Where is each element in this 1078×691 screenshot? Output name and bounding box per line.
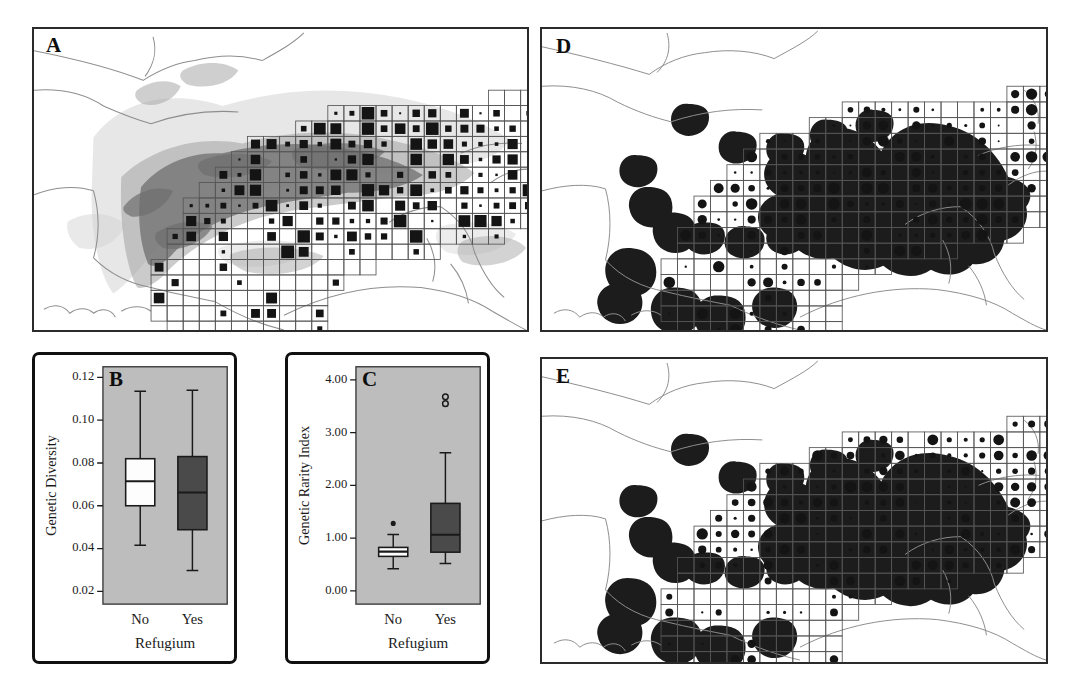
sample-circle-symbol [697,528,708,539]
panel-a-distribution-map: A [32,27,529,332]
sample-circle-symbol [779,513,789,523]
sample-circle-symbol [833,470,836,473]
sample-square-symbol [495,142,499,146]
sample-circle-symbol [964,124,967,127]
sample-square-symbol [331,186,341,195]
sample-square-symbol [286,189,289,192]
panel-c-y-axis-title: Genetic Rarity Index [296,426,312,545]
sample-circle-symbol [996,469,1001,474]
sample-circle-symbol [862,168,872,178]
sample-square-symbol [220,203,226,209]
sample-square-symbol [494,234,498,238]
sample-square-symbol [285,173,290,178]
sample-square-symbol [507,154,517,164]
sample-square-symbol [250,185,261,196]
sample-circle-symbol [895,529,904,538]
sample-circle-symbol [964,155,968,159]
sample-circle-symbol [815,170,819,174]
sample-square-symbol [474,215,486,227]
sample-circle-symbol [912,168,921,177]
sample-square-symbol [219,171,227,179]
y-tick-label: 0.10 [72,412,94,426]
sample-circle-symbol [879,436,887,444]
outlier-filled [391,521,396,526]
sample-circle-symbol [932,549,934,551]
sample-circle-symbol [713,261,724,272]
sample-square-symbol [495,174,497,176]
sample-circle-symbol [780,467,789,476]
sample-circle-symbol [797,279,805,286]
sample-square-symbol [443,154,454,165]
sample-circle-symbol [897,139,902,144]
sample-square-symbol [476,125,484,133]
sample-square-symbol [173,234,178,239]
sample-circle-symbol [961,467,970,476]
sample-square-symbol [332,217,339,224]
sample-circle-symbol [979,153,986,160]
sample-circle-symbol [882,202,885,205]
sample-circle-symbol [911,152,921,162]
sample-square-symbol [365,233,371,239]
sample-circle-symbol [996,170,1001,175]
sample-square-symbol [395,123,406,134]
sample-square-symbol [250,169,261,180]
sample-square-symbol [477,187,483,193]
panel-b-category-labels: NoYes [131,611,203,627]
sample-square-symbol [267,139,277,149]
sample-circle-symbol [797,545,805,553]
sample-square-symbol [220,311,226,317]
sample-circle-symbol [1012,453,1018,459]
panel-e-map-graphic [542,359,1046,662]
sample-square-symbol [508,170,518,180]
sample-square-symbol [364,140,372,148]
sample-circle-symbol [863,137,871,145]
sample-circle-symbol [947,500,951,504]
sample-circle-symbol [1028,421,1035,428]
sample-circle-symbol [865,202,869,206]
sample-circle-symbol [878,121,888,131]
panel-d-genetic-diversity-map: D [540,27,1048,332]
sample-circle-symbol [863,436,870,443]
sample-circle-symbol [929,200,936,207]
sample-circle-symbol [816,517,819,520]
sample-circle-symbol [880,499,886,505]
sample-circle-symbol [927,434,938,445]
sample-square-symbol [155,263,164,272]
sample-square-symbol [444,139,454,149]
sample-circle-symbol [763,277,773,287]
y-tick-label: 4.00 [325,372,347,386]
sample-circle-symbol [765,547,771,553]
sample-square-symbol [460,109,469,118]
panel-c-chart-graphic: 0.001.002.003.004.00 NoYes Genetic Rarit… [288,355,487,661]
sample-circle-symbol [816,564,819,567]
sample-circle-symbol [948,203,950,205]
sample-circle-symbol [830,498,838,506]
sample-square-symbol [362,154,373,165]
sample-circle-symbol [928,184,937,193]
sample-circle-symbol [815,139,820,144]
sample-circle-symbol [981,470,983,472]
box-iqr [431,503,460,552]
sample-circle-symbol [980,532,984,536]
sample-circle-symbol [964,453,968,457]
sample-square-symbol [463,235,466,238]
sample-square-symbol [410,138,422,150]
sample-square-symbol [381,141,386,146]
sample-circle-symbol [1026,88,1037,99]
sample-square-symbol [237,280,242,285]
sample-square-symbol [397,187,403,193]
sample-circle-symbol [780,199,790,208]
sample-square-symbol [494,203,500,209]
sample-square-symbol [461,203,467,209]
sample-circle-symbol [832,124,835,127]
sample-square-symbol [253,203,259,209]
sample-square-symbol [445,172,451,178]
sample-circle-symbol [796,215,806,225]
sample-circle-symbol [879,546,887,554]
sample-circle-symbol [912,561,921,570]
sample-square-symbol [347,232,357,242]
sample-circle-symbol [1028,546,1035,553]
sample-square-symbol [205,204,209,208]
sample-square-symbol [491,216,501,226]
sample-square-symbol [362,184,374,196]
